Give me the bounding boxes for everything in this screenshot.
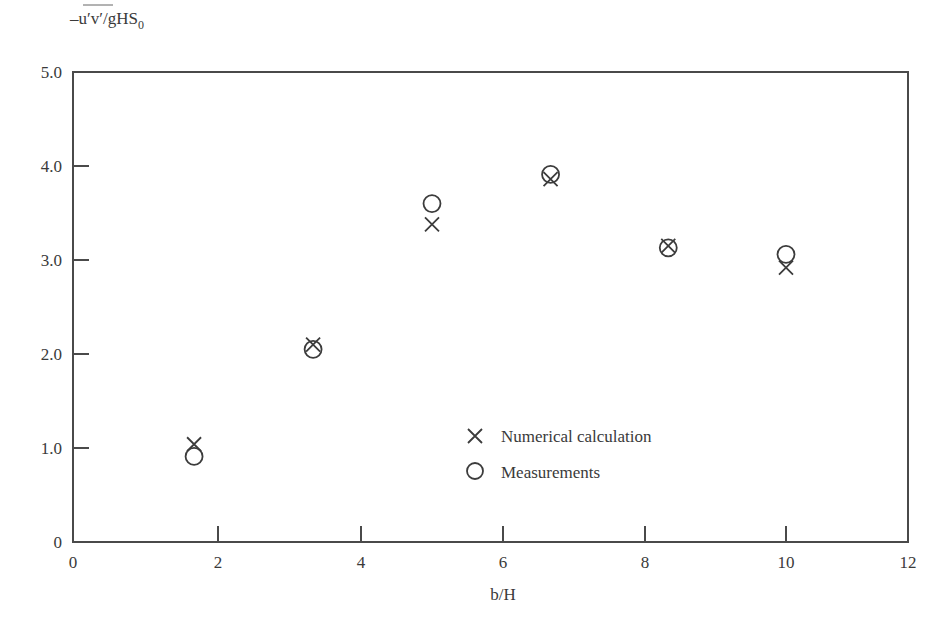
y-tick-label: 2.0 [41,345,62,364]
legend-label-numerical: Numerical calculation [501,427,652,446]
y-tick-label: 0 [54,533,63,552]
legend-item-numerical: Numerical calculation [468,427,652,446]
x-marker-icon [544,172,558,186]
plot-frame [73,72,908,542]
x-tick-label: 12 [900,553,917,572]
y-tick-label: 4.0 [41,157,62,176]
legend-label-measurements: Measurements [501,463,600,482]
x-tick-label: 0 [69,553,78,572]
circle-marker-icon [467,463,483,479]
x-tick-label: 2 [214,553,223,572]
circle-marker-icon [660,239,677,256]
legend-item-measurements: Measurements [467,463,600,482]
x-axis-ticks: 024681012 [69,526,917,572]
x-tick-label: 8 [641,553,650,572]
x-marker-icon [468,429,482,443]
y-axis-title: –u′v′/gHS0 [69,9,144,32]
circle-marker-icon [424,195,441,212]
data-markers [186,166,795,465]
legend: Numerical calculation Measurements [467,427,652,482]
scatter-chart: –u′v′/gHS0 024681012 01.02.03.04.05.0 b/… [0,0,951,628]
y-tick-label: 3.0 [41,251,62,270]
x-axis-title: b/H [490,585,516,604]
x-marker-icon [425,217,439,231]
circle-marker-icon [186,448,203,465]
x-marker-icon [306,338,320,352]
y-axis-ticks: 01.02.03.04.05.0 [41,63,89,552]
y-tick-label: 5.0 [41,63,62,82]
circle-marker-icon [778,246,795,263]
y-tick-label: 1.0 [41,439,62,458]
x-tick-label: 10 [778,553,795,572]
x-tick-label: 4 [357,553,366,572]
x-tick-label: 6 [499,553,508,572]
